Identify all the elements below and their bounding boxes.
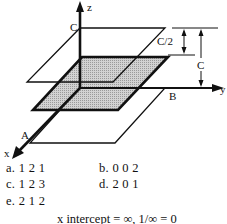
- half-c-dimension-label: C/2: [157, 36, 173, 47]
- x-axis-label: x: [4, 148, 10, 159]
- y-axis-label: y: [220, 84, 226, 95]
- full-c-dimension-label: C: [197, 60, 204, 71]
- x-intercept-note: x intercept = ∞, 1/∞ = 0: [57, 213, 177, 224]
- point-a-label: A: [21, 130, 29, 141]
- choice-c: c. 1 2 3: [6, 178, 45, 191]
- point-c-label: C: [70, 22, 77, 33]
- choice-d: d. 2 0 1: [99, 178, 139, 191]
- z-axis-label: z: [87, 2, 92, 13]
- dimension-markers: [168, 28, 218, 87]
- choice-e: e. 2 1 2: [6, 195, 45, 208]
- miller-index-diagram: [0, 0, 227, 160]
- point-b-label: B: [169, 91, 176, 102]
- choice-b: b. 0 0 2: [99, 162, 139, 175]
- choice-a: a. 1 2 1: [6, 162, 45, 175]
- shaded-plane: [33, 57, 168, 110]
